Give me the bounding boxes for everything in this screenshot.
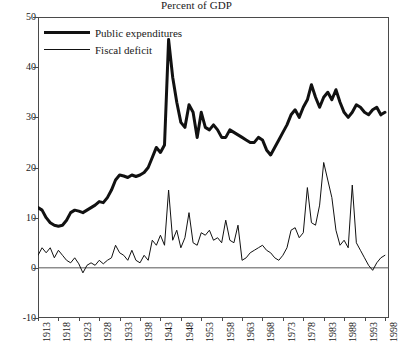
x-axis-tick-mark [99,317,100,321]
x-axis-tick-label: 1953 [205,322,215,342]
x-axis-tick-label: 1958 [226,322,236,342]
legend-swatch-icon [44,49,90,50]
x-axis-tick-mark [242,317,243,321]
x-axis-tick-label: 1978 [307,322,317,342]
x-axis-tick-mark [79,317,80,321]
x-axis-tick-mark [344,317,345,321]
x-axis-tick-label: 1973 [287,322,297,342]
x-axis-tick-label: 1993 [369,322,379,342]
x-axis-tick-mark [283,317,284,321]
x-axis-tick-label: 1968 [266,322,276,342]
legend-item-fiscal-deficit: Fiscal deficit [44,41,224,58]
x-axis-tick-mark [140,317,141,321]
x-axis-tick-label: 1918 [62,322,72,342]
x-axis-tick-label: 1933 [124,322,134,342]
x-axis-tick-mark [58,317,59,321]
legend-label: Public expenditures [95,27,182,39]
x-axis-tick-label: 1963 [246,322,256,342]
x-axis-tick-mark [324,317,325,321]
x-axis-tick-mark [201,317,202,321]
x-axis-tick-label: 1938 [144,322,154,342]
x-axis-tick-label: 1983 [328,322,338,342]
x-axis-tick-mark [181,317,182,321]
x-axis-tick-label: 1988 [348,322,358,342]
x-axis-tick-mark [38,317,39,321]
x-axis-tick-mark [385,317,386,321]
x-axis-tick-label: 1948 [185,322,195,342]
x-axis-tick-mark [303,317,304,321]
legend-swatch-icon [44,31,90,34]
x-axis-tick-label: 1943 [164,322,174,342]
x-axis-tick-label: 1928 [103,322,113,342]
x-axis-tick-mark [365,317,366,321]
x-axis-tick-mark [222,317,223,321]
x-axis-tick-mark [262,317,263,321]
x-axis-tick-label: 1913 [42,322,52,342]
chart-legend: Public expenditures Fiscal deficit [44,24,224,58]
x-axis-tick-mark [120,317,121,321]
legend-item-public-expenditures: Public expenditures [44,24,224,41]
x-axis-tick-mark [160,317,161,321]
x-axis-tick-label: 1923 [83,322,93,342]
x-axis-tick-label: 1998 [389,322,399,342]
legend-label: Fiscal deficit [95,44,152,56]
